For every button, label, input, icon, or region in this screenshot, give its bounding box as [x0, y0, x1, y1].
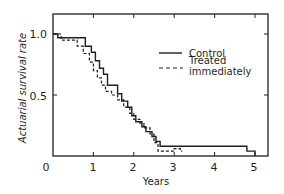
y-tick-label-1-0: 1.0 [30, 28, 48, 41]
legend-treated-label-line2: immediately [189, 66, 252, 77]
axis-ticks [53, 14, 268, 156]
x-tick-label-3: 3 [170, 161, 177, 174]
x-tick-label-0: 0 [43, 161, 50, 174]
survival-chart: 1.0 0.5 0 1 2 3 4 5 Years Actuarial surv… [0, 0, 284, 194]
x-tick-label-1: 1 [90, 161, 97, 174]
x-tick-label-4: 4 [211, 161, 218, 174]
x-axis-title: Years [142, 176, 169, 187]
plot-frame [53, 14, 268, 156]
y-axis-title: Actuarial survival rate [17, 33, 28, 144]
x-tick-label-2: 2 [130, 161, 137, 174]
legend: Control Treated immediately [159, 48, 252, 77]
legend-treated-label-line1: Treated [188, 55, 226, 66]
x-tick-label-5: 5 [251, 161, 258, 174]
y-tick-label-0-5: 0.5 [30, 90, 48, 103]
